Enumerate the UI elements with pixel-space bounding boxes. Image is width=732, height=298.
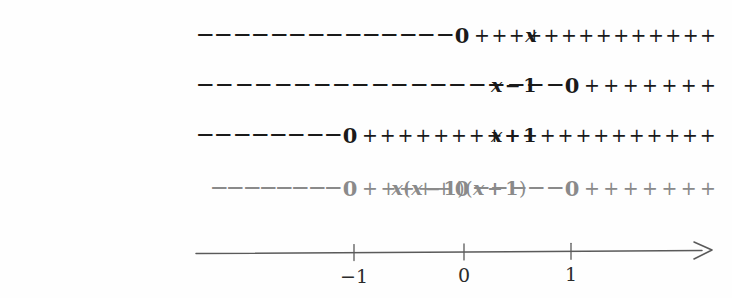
minus-glyph: − xyxy=(527,179,546,196)
minus-glyph: − xyxy=(293,76,312,93)
minus-glyph: − xyxy=(429,76,448,93)
negative-sign-segment: −−−−−−−−−−−−−− xyxy=(198,18,452,52)
zero-marker: 0 xyxy=(565,178,580,199)
minus-glyph: − xyxy=(232,26,251,43)
sign-row-x: x −−−−−−−−−−−−−−++++++++++++++0 xyxy=(0,18,732,52)
minus-glyph: − xyxy=(472,179,491,196)
minus-glyph: − xyxy=(409,76,428,93)
minus-glyph: − xyxy=(214,26,233,43)
plus-glyph: + xyxy=(631,26,647,45)
minus-glyph: − xyxy=(323,126,342,143)
plus-glyph: + xyxy=(682,126,698,145)
plus-glyph: + xyxy=(486,126,502,145)
plus-glyph: + xyxy=(629,126,645,145)
plus-glyph: + xyxy=(681,179,697,198)
plus-glyph: + xyxy=(509,26,525,45)
plus-glyph: + xyxy=(603,179,619,198)
plus-glyph: + xyxy=(380,126,396,145)
minus-glyph: − xyxy=(361,26,380,43)
minus-glyph: − xyxy=(215,76,234,93)
plus-glyph: + xyxy=(381,179,397,198)
plus-glyph: + xyxy=(584,76,600,95)
row-track-x: −−−−−−−−−−−−−−++++++++++++++0 xyxy=(198,18,715,52)
minus-glyph: − xyxy=(351,76,370,93)
minus-glyph: − xyxy=(325,26,344,43)
zero-marker: 0 xyxy=(455,178,470,199)
minus-glyph: − xyxy=(196,76,215,93)
minus-glyph: − xyxy=(288,26,307,43)
minus-glyph: − xyxy=(269,26,288,43)
plus-glyph: + xyxy=(540,126,556,145)
plus-glyph: + xyxy=(399,179,415,198)
plus-glyph: + xyxy=(436,179,452,198)
plus-glyph: + xyxy=(415,126,431,145)
negative-sign-segment: −−−−−−−− xyxy=(212,171,340,205)
minus-glyph: − xyxy=(398,26,417,43)
plus-glyph: + xyxy=(613,26,629,45)
plus-glyph: + xyxy=(398,126,414,145)
minus-glyph: − xyxy=(196,126,215,143)
plus-glyph: + xyxy=(623,179,639,198)
plus-glyph: + xyxy=(661,76,677,95)
minus-glyph: − xyxy=(214,126,233,143)
minus-glyph: − xyxy=(343,26,362,43)
plus-glyph: + xyxy=(603,76,619,95)
row-track-x-minus-1: −−−−−−−−−−−−−−−−−−−+++++++0 xyxy=(198,68,715,102)
plus-glyph: + xyxy=(578,26,594,45)
minus-glyph: − xyxy=(305,126,324,143)
axis-tick-label: 0 xyxy=(458,264,470,286)
plus-glyph: + xyxy=(418,179,434,198)
negative-sign-segment: −−−−−−−−−−−−−−−−−−− xyxy=(198,68,562,102)
positive-sign-segment: ++++++++++++++ xyxy=(474,18,716,52)
plus-glyph: + xyxy=(623,76,639,95)
plus-glyph: + xyxy=(474,26,490,45)
minus-glyph: − xyxy=(490,179,509,196)
axis-tick-label: −1 xyxy=(340,265,368,287)
plus-glyph: + xyxy=(683,26,699,45)
zero-marker: 0 xyxy=(455,25,470,46)
sign-row-x-minus-1: x−1 −−−−−−−−−−−−−−−−−−−+++++++0 xyxy=(0,68,732,102)
plus-glyph: + xyxy=(491,26,507,45)
minus-glyph: − xyxy=(545,76,564,93)
sign-chart-figure: x −−−−−−−−−−−−−−++++++++++++++0 x−1 −−−−… xyxy=(0,0,732,298)
sign-row-product: x(x−1)(x+1) −−−−−−−−+++++−−−−−+++++++000 xyxy=(0,171,732,205)
minus-glyph: − xyxy=(251,26,270,43)
plus-glyph: + xyxy=(362,126,378,145)
positive-sign-segment: +++++++ xyxy=(584,68,716,102)
minus-glyph: − xyxy=(435,26,454,43)
minus-glyph: − xyxy=(526,76,545,93)
plus-glyph: + xyxy=(700,26,716,45)
axis-line xyxy=(196,251,702,254)
minus-glyph: − xyxy=(323,179,342,196)
plus-glyph: + xyxy=(469,126,485,145)
minus-glyph: − xyxy=(506,76,525,93)
minus-glyph: − xyxy=(417,26,436,43)
plus-glyph: + xyxy=(648,26,664,45)
plus-glyph: + xyxy=(642,179,658,198)
positive-sign-segment: ++++++++++++++++++++ xyxy=(362,118,716,152)
plus-glyph: + xyxy=(596,26,612,45)
plus-glyph: + xyxy=(700,179,716,198)
sign-row-x-plus-1: x+1 −−−−−−−−++++++++++++++++++++0 xyxy=(0,118,732,152)
minus-glyph: − xyxy=(234,76,253,93)
minus-glyph: − xyxy=(250,126,269,143)
plus-glyph: + xyxy=(362,179,378,198)
minus-glyph: − xyxy=(269,126,288,143)
plus-glyph: + xyxy=(522,126,538,145)
minus-glyph: − xyxy=(254,76,273,93)
zero-marker: 0 xyxy=(343,125,358,146)
plus-glyph: + xyxy=(593,126,609,145)
minus-glyph: − xyxy=(380,26,399,43)
plus-glyph: + xyxy=(451,126,467,145)
minus-glyph: − xyxy=(487,76,506,93)
minus-glyph: − xyxy=(287,126,306,143)
minus-glyph: − xyxy=(196,26,215,43)
minus-glyph: − xyxy=(273,76,292,93)
negative-sign-segment: −−−−−−−− xyxy=(198,118,340,152)
minus-glyph: − xyxy=(508,179,527,196)
axis-tick-label: 1 xyxy=(565,263,577,285)
plus-glyph: + xyxy=(433,126,449,145)
plus-glyph: + xyxy=(700,126,716,145)
minus-glyph: − xyxy=(545,179,564,196)
plus-glyph: + xyxy=(681,76,697,95)
